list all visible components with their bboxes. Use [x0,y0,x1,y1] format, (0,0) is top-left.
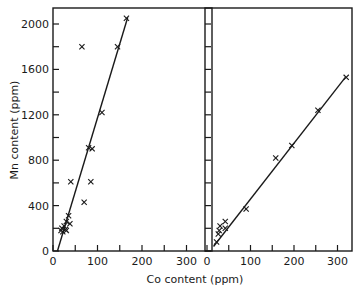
data-point-x-marker [214,239,219,244]
plot-frame [53,8,212,251]
x-axis-title: Co content (ppm) [147,273,244,286]
y-tick-label: 400 [28,200,49,213]
x-tick-label: 200 [284,255,305,268]
data-point-x-marker [88,179,93,184]
x-tick-label: 200 [132,255,153,268]
regression-line [214,77,346,246]
data-point-x-marker [223,219,228,224]
plot-frame [205,8,352,251]
y-tick-label: 800 [28,154,49,167]
y-tick-label: 1600 [21,63,49,76]
data-point-x-marker [289,143,294,148]
y-tick-label: 2000 [21,18,49,31]
data-point-x-marker [217,223,222,228]
right-panel: 0100200300 [204,8,353,268]
y-tick-label: 0 [42,245,49,258]
left-panel: 04008001200160020000100200300 [21,8,212,268]
y-axis-title: Mn content (ppm) [8,81,21,180]
data-point-x-marker [79,44,84,49]
data-point-x-marker [244,206,249,211]
x-tick-label: 100 [87,255,108,268]
chart-canvas: 04008001200160020000100200300 0100200300… [0,0,360,293]
x-tick-label: 300 [327,255,348,268]
data-point-x-marker [99,110,104,115]
data-point-x-marker [82,200,87,205]
x-tick-label: 300 [176,255,197,268]
data-point-x-marker [273,155,278,160]
data-point-x-marker [344,75,349,80]
x-tick-label: 0 [204,255,211,268]
x-tick-label: 0 [50,255,57,268]
x-tick-label: 100 [240,255,261,268]
y-tick-label: 1200 [21,109,49,122]
data-point-x-marker [68,179,73,184]
